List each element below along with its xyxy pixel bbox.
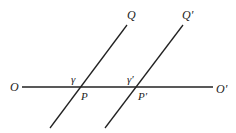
- label-o: O: [10, 80, 19, 94]
- parallel-lines-diagram: O O′ Q Q′ γ γ′ P P′: [0, 0, 236, 133]
- label-q-prime: Q′: [182, 8, 194, 22]
- label-p: P: [80, 90, 88, 102]
- label-q: Q: [127, 8, 136, 22]
- label-gamma-prime: γ′: [127, 73, 134, 85]
- label-gamma: γ: [71, 73, 76, 85]
- line-pq: [50, 25, 127, 128]
- line-p-prime-q-prime: [105, 25, 183, 128]
- label-o-prime: O′: [216, 82, 228, 96]
- label-p-prime: P′: [137, 90, 148, 102]
